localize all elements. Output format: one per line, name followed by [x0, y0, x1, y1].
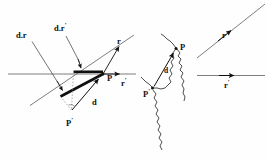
left-leader-d-dot-r	[32, 42, 60, 87]
label-right-r-prime: r′	[224, 79, 230, 89]
label-left-d: d	[92, 98, 97, 107]
figure-container: d.r d.r′ r r′ P P′ d P P′ d r r′	[0, 0, 266, 161]
label-d-dot-r-prime: d.r′	[54, 22, 67, 32]
label-middle-P-prime-mark: ′	[148, 87, 150, 95]
label-left-r-prime-mark: ′	[125, 76, 127, 84]
label-middle-P: P	[180, 43, 185, 52]
label-middle-P-prime: P′	[143, 88, 150, 98]
label-right-r: r	[222, 31, 226, 40]
left-point-P-dot	[102, 73, 105, 76]
left-dashed-diagonal	[61, 97, 72, 111]
middle-wavy-upper-left	[161, 34, 176, 48]
left-thick-diagonal-segment	[61, 74, 104, 97]
left-leader-d-dot-r-prime	[66, 36, 80, 63]
label-middle-d: d	[164, 67, 168, 75]
left-panel-graphics	[8, 35, 136, 110]
label-left-P-prime: P′	[66, 117, 73, 127]
middle-wavy-lower-tail	[153, 90, 162, 150]
middle-point-P-prime-dot	[151, 87, 154, 90]
label-d-dot-r: d.r	[16, 31, 27, 40]
label-left-r: r	[117, 37, 121, 46]
left-leader-d-dot-r-arrow	[57, 81, 63, 91]
label-left-r-prime: r′	[121, 77, 127, 87]
label-left-P: P	[107, 74, 112, 83]
label-d-dot-r-prime-base: d.r	[54, 23, 65, 33]
left-leader-d-dot-r-prime-arrow	[78, 59, 81, 68]
middle-wavy-right-branch	[177, 49, 185, 101]
middle-wavy-upper-from-P-prime	[141, 77, 152, 87]
label-right-r-prime-mark: ′	[228, 78, 230, 86]
right-panel-graphics	[197, 4, 265, 76]
middle-point-P-dot	[175, 47, 178, 50]
label-left-P-prime-mark: ′	[71, 116, 73, 124]
label-d-dot-r-prime-mark: ′	[65, 21, 67, 29]
